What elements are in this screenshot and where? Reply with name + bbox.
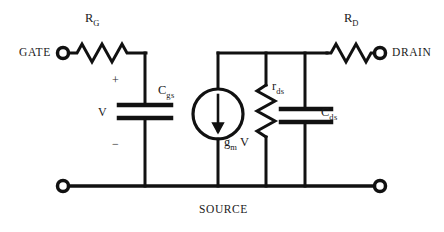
source-rail-label: SOURCE [199,204,248,216]
cgs-label: Cgs [158,84,175,99]
rd-resistor-zigzag [327,44,374,62]
drain-terminal-label: DRAIN [392,47,431,59]
cgs-label-sub: gs [166,90,174,100]
drain-terminal-node [375,48,386,59]
schematic-canvas: GATE DRAIN SOURCE RG RD Cgs Cds rds gm V… [0,0,444,232]
gm-label-tail: V [240,135,249,149]
gm-source-label: gm V [224,136,249,151]
rg-resistor-zigzag [69,44,146,62]
cds-label-sub: ds [329,112,337,122]
voltage-v-label: V [98,106,107,118]
gate-terminal-label: GATE [19,47,51,59]
rg-label: RG [85,12,100,27]
gm-label-sub: m [230,142,237,152]
rg-label-sub: G [93,18,99,28]
rd-label: RD [344,12,359,27]
source-left-terminal-node [58,181,69,192]
circuit-schematic-svg [0,0,444,232]
polarity-minus-label: − [112,138,119,150]
rds-label-sub: ds [276,86,284,96]
cds-label: Cds [321,106,338,121]
source-right-terminal-node [375,181,386,192]
rds-label: rds [272,80,284,95]
rd-label-sub: D [352,18,358,28]
polarity-plus-label: + [112,74,119,86]
gate-terminal-node [58,48,69,59]
